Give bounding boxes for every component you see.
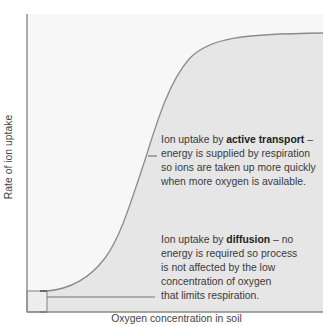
diffusion-line-3: is not affected by the low — [161, 261, 297, 275]
diffusion-bracket — [27, 291, 47, 312]
active-keyword: active transport — [226, 134, 304, 145]
diffusion-line-1: Ion uptake by diffusion – no — [161, 233, 297, 247]
x-axis-label: Oxygen concentration in soil — [0, 313, 323, 324]
active-line-3: so ions are taken up more quickly — [161, 161, 316, 175]
active-line-4: when more oxygen is available. — [161, 175, 316, 189]
diffusion-line-4: concentration of oxygen — [161, 275, 297, 289]
diffusion-line-2: energy is required so process — [161, 247, 297, 261]
active-line-1: Ion uptake by active transport – — [161, 133, 316, 147]
y-axis-label: Rate of ion uptake — [3, 102, 17, 212]
diffusion-annotation: Ion uptake by diffusion – no energy is r… — [161, 233, 297, 303]
active-line-2: energy is supplied by respiration — [161, 147, 316, 161]
active-transport-annotation: Ion uptake by active transport – energy … — [161, 133, 316, 189]
diffusion-keyword: diffusion — [226, 234, 270, 245]
diffusion-line-5: that limits respiration. — [161, 289, 297, 303]
